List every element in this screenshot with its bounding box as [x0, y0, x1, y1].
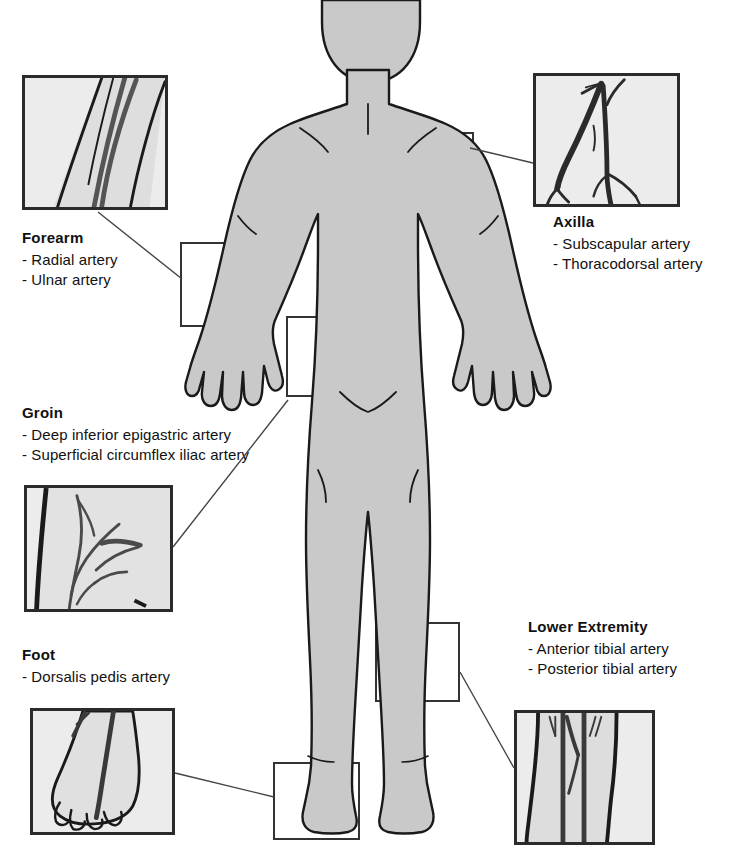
label-forearm: Forearm - Radial artery - Ulnar artery: [22, 228, 118, 289]
label-groin-artery-1: - Deep inferior epigastric artery: [22, 425, 249, 445]
marker-foot[interactable]: [273, 762, 360, 840]
inset-forearm[interactable]: [22, 75, 168, 210]
marker-lower-extremity[interactable]: [375, 622, 460, 702]
label-axilla-artery-2: - Thoracodorsal artery: [553, 254, 702, 274]
arterial-donor-sites-diagram: Forearm - Radial artery - Ulnar artery A…: [0, 0, 740, 867]
inset-foot[interactable]: [30, 708, 175, 835]
label-lower-extremity: Lower Extremity - Anterior tibial artery…: [528, 617, 677, 678]
leader-lower-extremity: [460, 672, 514, 768]
label-foot-title: Foot: [22, 645, 170, 665]
label-groin: Groin - Deep inferior epigastric artery …: [22, 403, 249, 464]
label-forearm-artery-2: - Ulnar artery: [22, 270, 118, 290]
label-forearm-artery-1: - Radial artery: [22, 250, 118, 270]
head-shape: [322, 0, 420, 82]
inset-groin[interactable]: [24, 485, 173, 612]
left-knee-crease: [318, 470, 326, 502]
marker-axilla[interactable]: [388, 132, 474, 210]
label-lower-extremity-artery-1: - Anterior tibial artery: [528, 639, 677, 659]
inset-axilla[interactable]: [533, 73, 680, 207]
label-forearm-title: Forearm: [22, 228, 118, 248]
label-axilla-artery-1: - Subscapular artery: [553, 234, 702, 254]
label-axilla-title: Axilla: [553, 212, 702, 232]
label-lower-extremity-artery-2: - Posterior tibial artery: [528, 659, 677, 679]
marker-groin[interactable]: [286, 316, 372, 397]
label-groin-artery-2: - Superficial circumflex iliac artery: [22, 445, 249, 465]
marker-forearm[interactable]: [180, 242, 268, 327]
label-lower-extremity-title: Lower Extremity: [528, 617, 677, 637]
left-clavicle-line: [300, 128, 328, 152]
label-groin-title: Groin: [22, 403, 249, 423]
inset-lower-extremity[interactable]: [514, 710, 655, 845]
leader-axilla: [470, 148, 533, 163]
right-elbow-crease: [480, 216, 498, 234]
label-axilla: Axilla - Subscapular artery - Thoracodor…: [553, 212, 702, 273]
leader-foot: [175, 773, 274, 797]
right-ankle-crease: [402, 756, 428, 762]
label-foot-artery-1: - Dorsalis pedis artery: [22, 667, 170, 687]
label-foot: Foot - Dorsalis pedis artery: [22, 645, 170, 687]
right-knee-crease: [410, 470, 418, 502]
left-elbow-crease: [238, 216, 256, 234]
